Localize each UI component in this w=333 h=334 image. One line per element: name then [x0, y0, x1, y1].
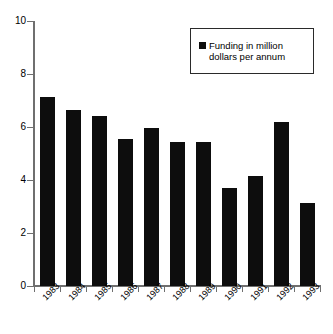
bar-1987	[144, 128, 159, 286]
y-tick-6	[27, 127, 34, 128]
y-tick-2	[27, 233, 34, 234]
y-tick-label-text: 6	[2, 122, 26, 132]
y-tick-label-text: 10	[2, 16, 26, 26]
y-tick-label-4: 4	[0, 175, 26, 185]
y-tick-label-10: 10	[0, 16, 26, 26]
bar-1986	[118, 139, 133, 286]
bar-1992	[274, 122, 289, 286]
y-tick-label-0: 0	[0, 281, 26, 291]
y-tick-4	[27, 180, 34, 181]
bar-1985	[92, 116, 107, 286]
legend-entry: Funding in million dollars per annum	[199, 40, 309, 62]
bar-chart: 0246810 19831984198519861987198819891990…	[0, 0, 333, 334]
y-tick-label-8: 8	[0, 69, 26, 79]
y-tick-label-text: 8	[2, 69, 26, 79]
y-tick-label-text: 4	[2, 175, 26, 185]
bar-1984	[66, 110, 81, 286]
bar-1993	[300, 203, 315, 286]
y-tick-0	[27, 286, 34, 287]
bar-1988	[170, 142, 185, 286]
bar-1991	[248, 176, 263, 286]
y-tick-label-text: 0	[2, 281, 26, 291]
y-tick-label-text: 2	[2, 228, 26, 238]
legend-swatch-icon	[199, 42, 206, 49]
y-tick-label-2: 2	[0, 228, 26, 238]
y-axis-line	[33, 21, 35, 287]
bar-1983	[40, 97, 55, 286]
y-tick-label-6: 6	[0, 122, 26, 132]
y-tick-10	[27, 21, 34, 22]
legend-box: Funding in million dollars per annum	[190, 28, 314, 74]
bar-1989	[196, 142, 211, 286]
y-tick-8	[27, 74, 34, 75]
x-tick	[34, 287, 35, 292]
bar-1990	[222, 188, 237, 286]
legend-label: Funding in million dollars per annum	[209, 40, 309, 62]
